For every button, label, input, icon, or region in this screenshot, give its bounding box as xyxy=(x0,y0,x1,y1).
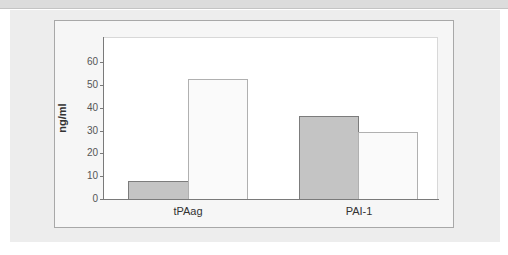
y-tick-label: 0 xyxy=(68,194,98,204)
y-tick-label: 30 xyxy=(68,126,98,136)
x-category-label: tPAag xyxy=(128,205,248,217)
bar-pai1-series1 xyxy=(299,116,359,200)
y-axis-line xyxy=(103,37,104,200)
bar-tpaag-series1 xyxy=(128,181,189,200)
x-axis-line xyxy=(103,199,439,200)
x-category-label: PAI-1 xyxy=(299,205,419,217)
top-band xyxy=(0,0,508,9)
y-tick-label: 60 xyxy=(68,57,98,67)
y-tick-label: 20 xyxy=(68,148,98,158)
bar-pai1-series2 xyxy=(358,132,418,200)
y-tick-label: 40 xyxy=(68,103,98,113)
bar-tpaag-series2 xyxy=(188,79,248,200)
y-tick-label: 50 xyxy=(68,80,98,90)
y-axis-label: ng/ml xyxy=(56,103,68,132)
y-tick-label: 10 xyxy=(68,171,98,181)
